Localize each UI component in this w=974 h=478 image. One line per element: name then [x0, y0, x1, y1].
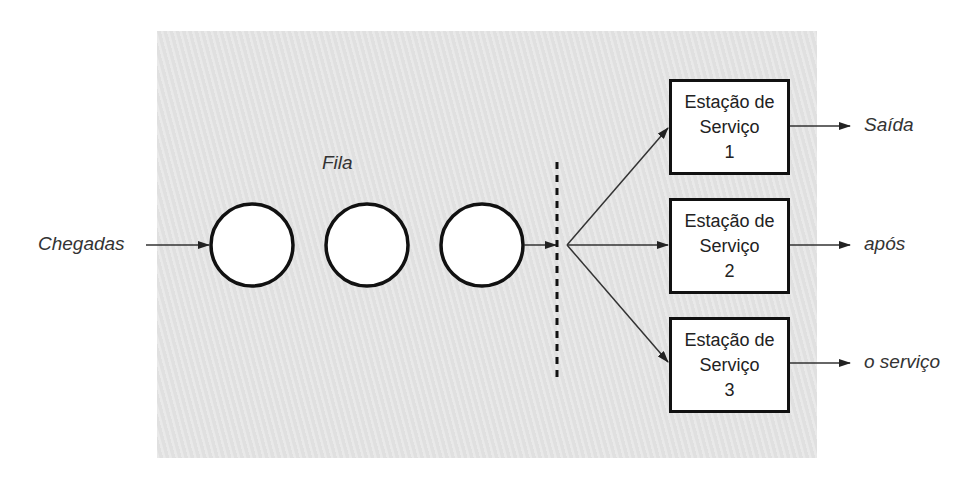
diagram-graphics	[0, 0, 974, 478]
service-station-2: Estação de Serviço 2	[669, 198, 790, 294]
service-station-1: Estação de Serviço 1	[669, 79, 790, 175]
dispatch-arrow-station-3	[567, 245, 668, 362]
station-title: Estação de	[684, 90, 774, 115]
arrivals-label: Chegadas	[38, 233, 125, 255]
queue-label: Fila	[322, 152, 353, 174]
station-number: 3	[724, 378, 734, 403]
station-number: 2	[724, 259, 734, 284]
queue-customer-1	[211, 204, 293, 286]
station-subtitle: Serviço	[699, 353, 759, 378]
service-station-3: Estação de Serviço 3	[669, 317, 790, 413]
dispatch-arrow-station-1	[567, 128, 668, 245]
station-subtitle: Serviço	[699, 234, 759, 259]
exit-label-1: Saída	[864, 114, 914, 136]
station-title: Estação de	[684, 328, 774, 353]
station-number: 1	[724, 140, 734, 165]
station-subtitle: Serviço	[699, 115, 759, 140]
exit-label-2: após	[864, 233, 905, 255]
queue-customer-2	[326, 204, 408, 286]
exit-label-3: o serviço	[864, 351, 940, 373]
queue-customer-3	[441, 204, 523, 286]
station-title: Estação de	[684, 209, 774, 234]
